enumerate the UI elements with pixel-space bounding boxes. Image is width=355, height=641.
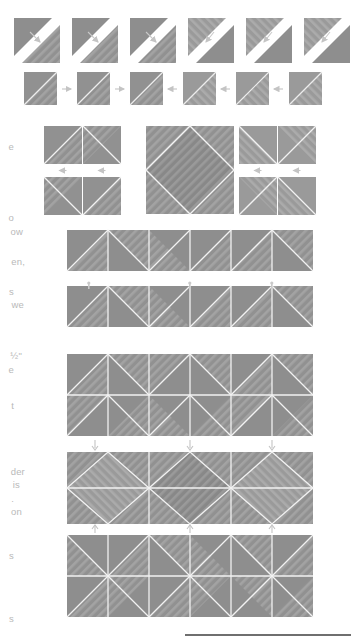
- margin-text-fragment: is: [13, 479, 20, 490]
- margin-text-fragment: en,: [11, 256, 25, 267]
- margin-text-fragment: ½": [10, 350, 22, 361]
- margin-text-fragment: der: [11, 466, 25, 477]
- margin-text-fragment: .: [11, 493, 14, 504]
- margin-text-fragment: o: [9, 212, 14, 223]
- margin-text-fragment: on: [11, 506, 22, 517]
- footer-rule: [185, 634, 351, 636]
- margin-text-fragment: s: [9, 550, 14, 561]
- margin-text-fragment: e: [9, 141, 14, 152]
- margin-text-fragment: e: [9, 364, 14, 375]
- margin-text-fragment: s: [9, 613, 14, 624]
- margin-text-fragment: t: [11, 400, 14, 411]
- margin-text-fragment: s: [9, 286, 14, 297]
- margin-text-fragment: ow: [10, 226, 23, 237]
- margin-text-layer: eoowen,swe½"etderis.onss: [0, 0, 355, 641]
- margin-text-fragment: we: [11, 299, 24, 310]
